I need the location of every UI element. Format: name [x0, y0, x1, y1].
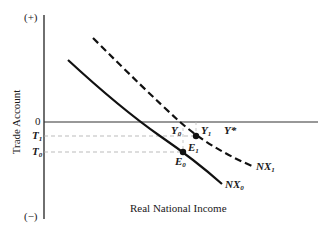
zero-label: 0 — [35, 116, 41, 127]
trade-account-diagram — [0, 0, 329, 230]
y-axis-minus-label: (−) — [24, 211, 38, 222]
nx0-label: NX0 — [225, 179, 244, 192]
nx1-label: NX1 — [256, 161, 275, 174]
ystar-label: Y* — [224, 125, 236, 136]
t0-label: T0 — [32, 146, 42, 159]
e0-label: E0 — [175, 156, 186, 169]
y-axis-title: Trade Account — [10, 90, 22, 155]
y1-label: Y1 — [201, 125, 211, 138]
y-axis-plus-label: (+) — [24, 12, 38, 23]
y0-label: Y0 — [171, 125, 181, 138]
e1-point — [193, 133, 199, 139]
t1-label: T1 — [32, 130, 42, 143]
x-axis-title: Real National Income — [130, 203, 227, 214]
e1-label: E1 — [188, 142, 199, 155]
